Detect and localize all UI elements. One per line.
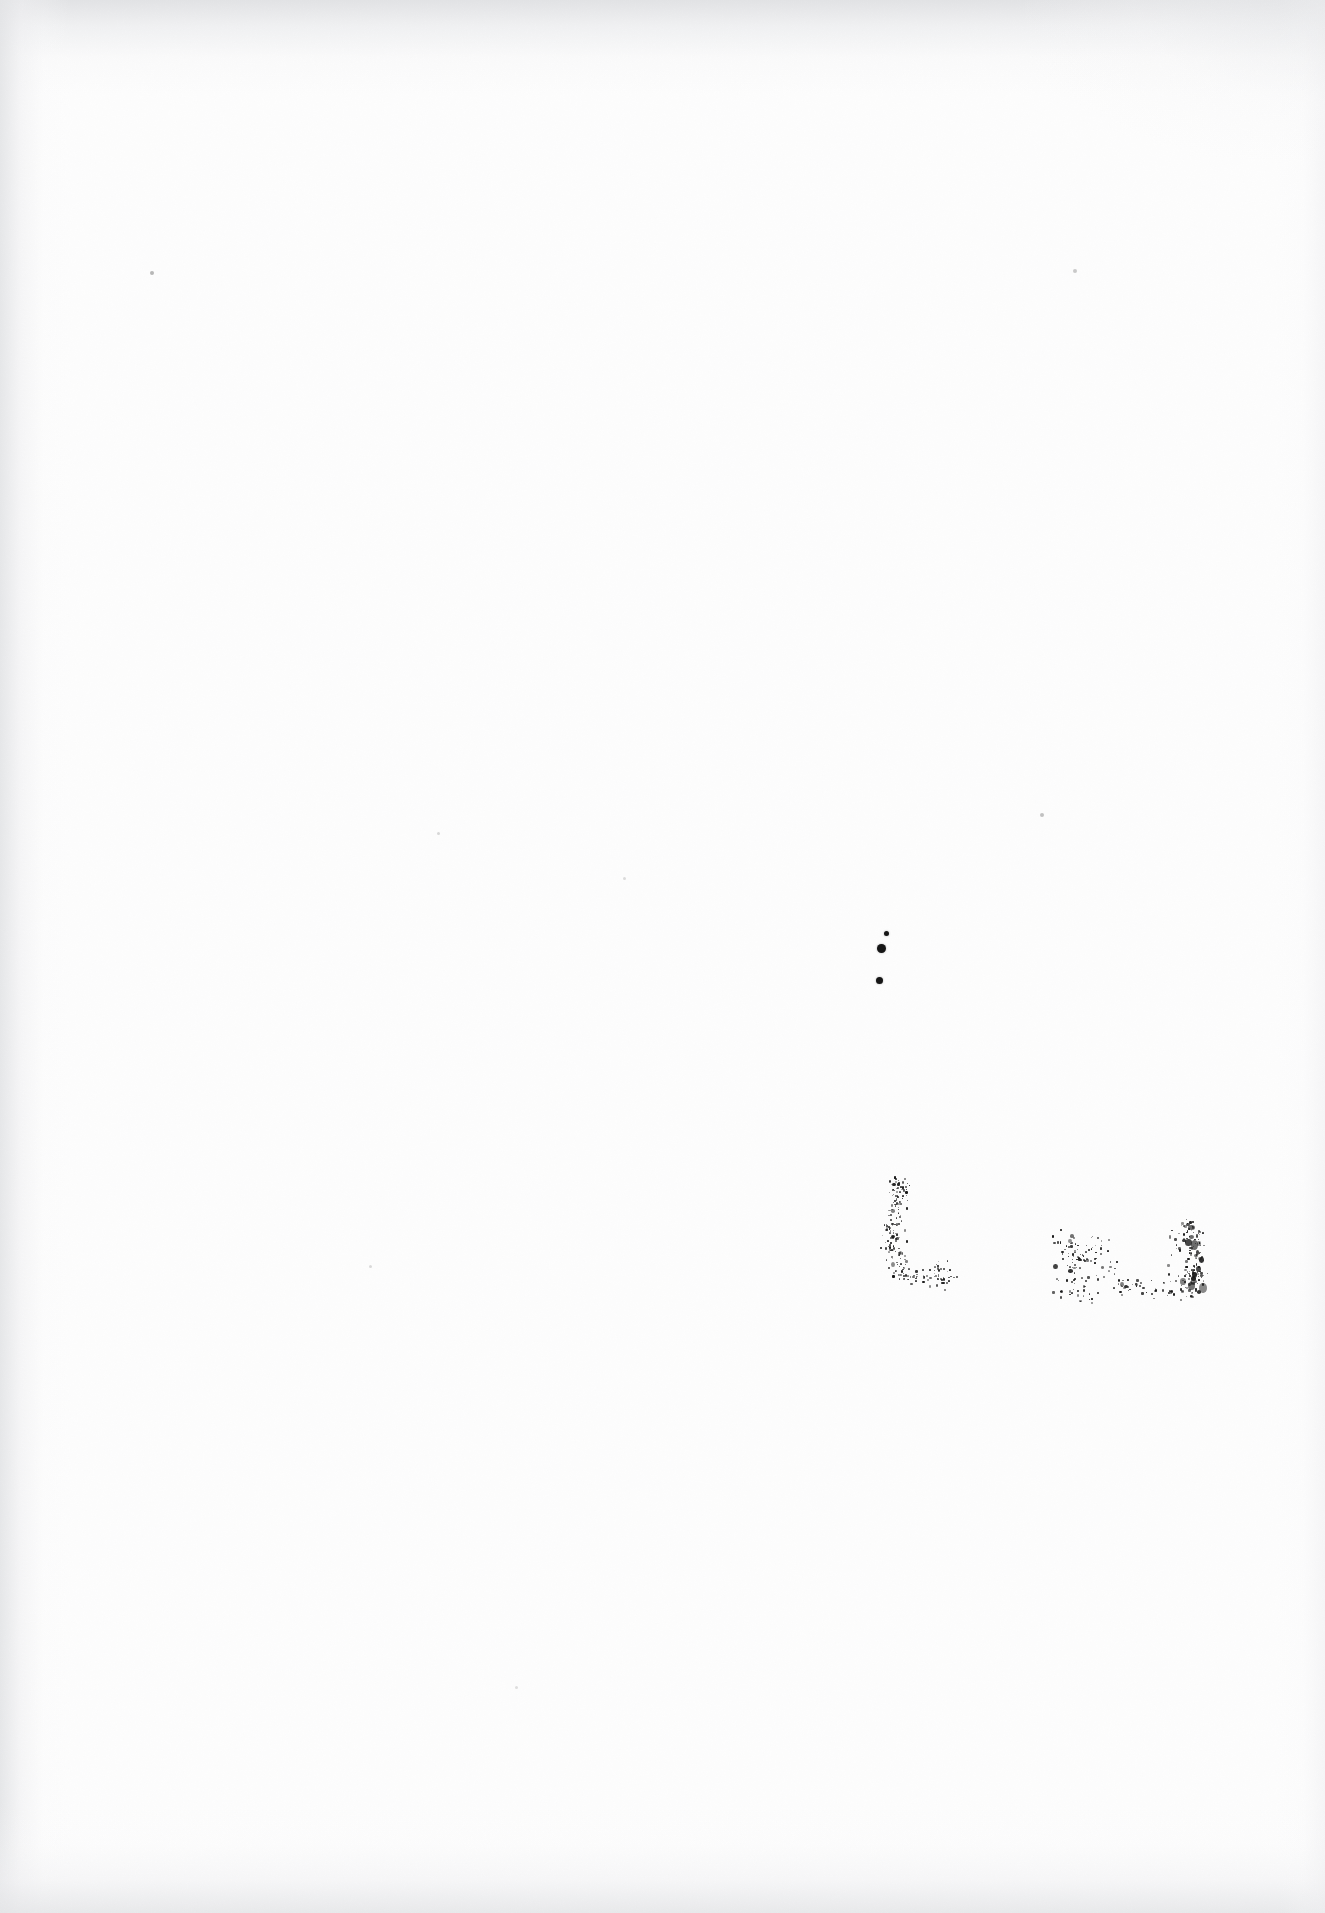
scanned-page xyxy=(0,0,1325,1913)
page-text-content xyxy=(0,0,1325,1913)
